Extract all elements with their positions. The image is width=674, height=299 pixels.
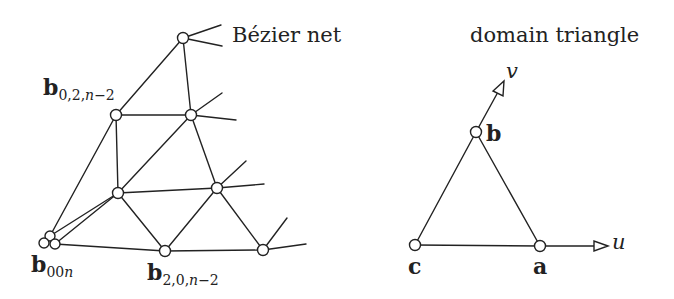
control-point-b20 (160, 246, 171, 257)
control-point-upper-right (186, 110, 197, 121)
bezier-net-figure: Bézier net domain triangle b0,2,n−2 b00n… (0, 0, 674, 299)
label-base: b (43, 74, 58, 100)
bezier-net-title: Bézier net (232, 25, 341, 46)
label-b02n-2: b0,2,n−2 (43, 76, 115, 98)
subscript-n: n (189, 272, 198, 288)
control-point-middle-left (113, 188, 124, 199)
domain-triangle-title: domain triangle (470, 25, 639, 46)
control-point-b00n (39, 238, 49, 248)
label-subscript: 2,0,n−2 (162, 272, 218, 288)
label-subscript: 0,2,n−2 (58, 87, 114, 103)
control-point-top (178, 33, 189, 44)
label-base: b (147, 259, 162, 285)
bezier-net-edges (50, 25, 306, 251)
label-vertex-b: b (486, 122, 501, 144)
subscript-offset: −2 (94, 87, 115, 103)
control-point-middle-right (212, 183, 223, 194)
domain-triangle (410, 81, 609, 252)
label-b20n-2: b2,0,n−2 (147, 261, 219, 283)
subscript-indices: 00 (46, 264, 64, 280)
u-arrow-icon (594, 241, 608, 251)
subscript-indices: 0,2, (58, 87, 85, 103)
control-point-bottom-right (258, 245, 269, 256)
label-axis-u: u (612, 232, 626, 253)
control-point-b02 (111, 110, 122, 121)
label-vertex-c: c (408, 255, 421, 277)
bezier-net-nodes (39, 33, 269, 257)
label-vertex-a: a (533, 255, 547, 277)
subscript-indices: 2,0, (162, 272, 189, 288)
label-b00n: b00n (31, 253, 73, 275)
subscript-n: n (85, 87, 94, 103)
vertex-a (535, 241, 546, 252)
control-point-cluster-right (50, 239, 60, 249)
vertex-c (410, 240, 421, 251)
subscript-n: n (64, 264, 73, 280)
label-subscript: 00n (46, 264, 73, 280)
vertex-b (471, 127, 482, 138)
v-arrow-icon (493, 81, 504, 96)
label-base: b (31, 251, 46, 277)
label-axis-v: v (506, 61, 518, 82)
subscript-offset: −2 (198, 272, 219, 288)
